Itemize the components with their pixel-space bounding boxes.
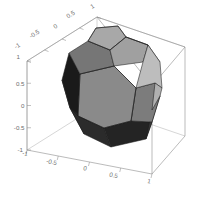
tick-label-top-2: 0 [52,22,59,30]
plot-canvas: -1 -0.5 0 0.5 1 1 0.5 0 -0.5 -1 -1 -0.5 … [0,0,197,198]
tick-marks-left-axis [27,61,31,150]
tick-labels-bottom-axis: -1 -0.5 0 0.5 1 [22,149,152,185]
tick-label-left-3: -0.5 [14,124,25,131]
box-edge-right-bottom-diag [152,136,185,174]
tick-top-3 [80,28,84,30]
tick-label-bottom-2: 0 [83,164,88,172]
tick-bottom-2 [89,162,90,166]
tick-label-bottom-1: -0.5 [46,157,58,166]
tick-label-bottom-3: 0.5 [109,171,119,180]
tick-label-left-2: 0 [21,102,25,109]
tick-label-top-0: -1 [13,41,22,50]
tick-label-top-1: -0.5 [28,27,41,39]
tick-label-left-0: 1 [17,53,21,60]
tick-marks-bottom-axis [26,150,152,178]
dodecahedron-face-front-center [78,66,136,128]
tick-label-left-1: 0.5 [16,80,25,87]
tick-label-top-3: 0.5 [65,9,76,20]
dodecahedron-3d-plot: -1 -0.5 0 0.5 1 1 0.5 0 -0.5 -1 -1 -0.5 … [0,0,197,198]
tick-label-top-4: 1 [89,2,96,10]
tick-label-bottom-0: -1 [22,149,29,157]
tick-label-bottom-4: 1 [147,177,152,185]
tick-top-1 [45,50,49,52]
tick-top-2 [62,39,66,41]
tick-labels-left-axis: 1 0.5 0 -0.5 -1 [14,53,25,153]
tick-bottom-3 [120,168,121,172]
dodecahedron-solid [62,26,162,147]
